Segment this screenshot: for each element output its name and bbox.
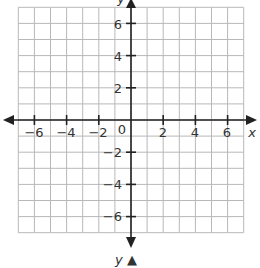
y-axis-down-arrow-icon	[126, 237, 136, 248]
x-axis-label: x	[247, 125, 256, 140]
y-axis-label-top: y	[116, 0, 125, 6]
y-axis-up-arrow-icon	[126, 0, 136, 8]
y-axis-label-bottom: y ▲	[114, 252, 137, 267]
y-tick-label: −4	[103, 177, 122, 192]
y-tick-label: −6	[103, 209, 122, 224]
x-tick-label: 6	[223, 125, 231, 140]
x-tick-label: −4	[56, 125, 75, 140]
x-tick-label: −2	[88, 125, 107, 140]
axes	[3, 0, 257, 248]
x-tick-label: 4	[191, 125, 199, 140]
x-tick-label: −6	[24, 125, 43, 140]
y-tick-label: −2	[103, 145, 122, 160]
origin-label: 0	[118, 122, 126, 137]
y-tick-label: 2	[114, 81, 122, 96]
x-tick-label: 2	[159, 125, 167, 140]
x-axis-left-arrow-icon	[3, 115, 14, 125]
coordinate-plane: −6 −4 −2 2 4 6 6 4 2 −2 −4 −6 0 x y y ▲	[0, 0, 260, 268]
y-tick-label: 6	[114, 17, 122, 32]
y-tick-label: 4	[114, 49, 122, 64]
x-axis-right-arrow-icon	[246, 115, 257, 125]
